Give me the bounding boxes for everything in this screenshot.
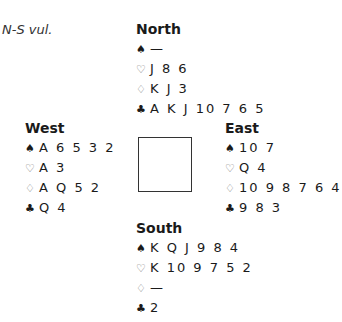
spade-icon: ♠: [25, 139, 39, 159]
heart-icon: ♡: [136, 60, 150, 80]
heart-icon: ♡: [25, 159, 39, 179]
west-diamonds: ♢A Q 5 2: [25, 178, 116, 198]
south-hand: South ♠K Q J 9 8 4 ♡K 10 9 7 5 2 ♢— ♣2: [136, 218, 253, 318]
east-diamonds: ♢10 9 8 7 6 4: [225, 178, 342, 198]
north-clubs: ♣A K J 10 7 6 5: [136, 99, 265, 119]
table-diagram-box: [138, 137, 192, 192]
east-name: East: [225, 118, 342, 138]
club-icon: ♣: [25, 199, 39, 219]
north-diamonds: ♢K J 3: [136, 79, 265, 99]
west-hand: West ♠A 6 5 3 2 ♡A 3 ♢A Q 5 2 ♣Q 4: [25, 118, 116, 218]
west-spades: ♠A 6 5 3 2: [25, 138, 116, 158]
club-icon: ♣: [225, 199, 239, 219]
west-name: West: [25, 118, 116, 138]
south-hearts: ♡K 10 9 7 5 2: [136, 258, 253, 278]
east-spades: ♠10 7: [225, 138, 342, 158]
heart-icon: ♡: [136, 259, 150, 279]
heart-icon: ♡: [225, 159, 239, 179]
vulnerability-label: N-S vul.: [2, 22, 52, 37]
diamond-icon: ♢: [136, 279, 150, 299]
club-icon: ♣: [136, 100, 150, 120]
spade-icon: ♠: [225, 139, 239, 159]
south-spades: ♠K Q J 9 8 4: [136, 238, 253, 258]
south-name: South: [136, 218, 253, 238]
north-name: North: [136, 19, 265, 39]
diamond-icon: ♢: [136, 80, 150, 100]
west-clubs: ♣Q 4: [25, 198, 116, 218]
diamond-icon: ♢: [25, 179, 39, 199]
north-spades: ♠—: [136, 39, 265, 59]
east-clubs: ♣9 8 3: [225, 198, 342, 218]
west-hearts: ♡A 3: [25, 158, 116, 178]
east-hearts: ♡Q 4: [225, 158, 342, 178]
south-clubs: ♣2: [136, 298, 253, 318]
diamond-icon: ♢: [225, 179, 239, 199]
north-hand: North ♠— ♡J 8 6 ♢K J 3 ♣A K J 10 7 6 5: [136, 19, 265, 119]
spade-icon: ♠: [136, 239, 150, 259]
east-hand: East ♠10 7 ♡Q 4 ♢10 9 8 7 6 4 ♣9 8 3: [225, 118, 342, 218]
club-icon: ♣: [136, 299, 150, 319]
south-diamonds: ♢—: [136, 278, 253, 298]
north-hearts: ♡J 8 6: [136, 59, 265, 79]
spade-icon: ♠: [136, 40, 150, 60]
